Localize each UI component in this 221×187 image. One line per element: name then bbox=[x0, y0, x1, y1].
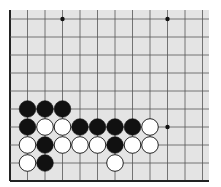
black-stone bbox=[107, 119, 124, 136]
black-stone bbox=[72, 119, 89, 136]
white-stone bbox=[142, 119, 159, 136]
black-stone bbox=[19, 101, 36, 118]
board-surface bbox=[10, 10, 209, 181]
black-stone bbox=[37, 101, 54, 118]
white-stone bbox=[72, 137, 89, 154]
board-background bbox=[10, 10, 209, 181]
black-stone bbox=[19, 119, 36, 136]
white-stone bbox=[19, 137, 36, 154]
go-board bbox=[0, 0, 221, 187]
black-stone bbox=[37, 137, 54, 154]
white-stone bbox=[19, 155, 36, 172]
white-stone bbox=[142, 137, 159, 154]
white-stone bbox=[54, 119, 71, 136]
white-stone bbox=[89, 137, 106, 154]
white-stone bbox=[54, 137, 71, 154]
black-stone bbox=[89, 119, 106, 136]
black-stone bbox=[124, 119, 141, 136]
white-stone bbox=[107, 155, 124, 172]
black-stone bbox=[37, 155, 54, 172]
black-stone bbox=[107, 137, 124, 154]
star-point-icon bbox=[165, 125, 169, 129]
black-stone bbox=[54, 101, 71, 118]
star-point-icon bbox=[60, 17, 64, 21]
white-stone bbox=[37, 119, 54, 136]
star-point-icon bbox=[165, 17, 169, 21]
white-stone bbox=[124, 137, 141, 154]
